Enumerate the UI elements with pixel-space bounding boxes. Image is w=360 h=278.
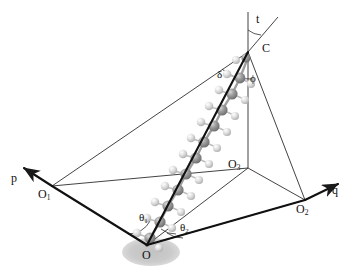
o1-letter: O bbox=[38, 187, 47, 201]
angle-label-delta: δ bbox=[217, 69, 222, 80]
point-label-o: O bbox=[142, 249, 151, 261]
angle-arcs bbox=[128, 30, 261, 238]
point-label-o2: O2 bbox=[296, 203, 308, 215]
vertex-dots bbox=[145, 243, 148, 246]
point-label-c: C bbox=[262, 42, 270, 54]
o2-letter: O bbox=[296, 202, 305, 216]
figure-canvas: p q t O1 O2 O3 C O θ1 θ2 δ ϕ bbox=[0, 0, 360, 278]
axis-label-p: p bbox=[11, 172, 17, 184]
theta2-sub: 2 bbox=[185, 227, 188, 234]
diagram-svg bbox=[0, 0, 360, 278]
angle-label-theta2: θ2 bbox=[180, 222, 189, 233]
o1-sub: 1 bbox=[47, 193, 51, 202]
theta1-sub: 1 bbox=[144, 217, 147, 224]
point-label-o3: O3 bbox=[228, 158, 240, 170]
angle-label-phi: ϕ bbox=[250, 73, 256, 84]
frame-lines bbox=[52, 52, 305, 245]
p-axis-arrow bbox=[24, 168, 52, 186]
axis-o-o1 bbox=[52, 186, 147, 245]
edge-c-o2 bbox=[248, 52, 305, 200]
edge-o1-o3 bbox=[52, 168, 248, 186]
axis-label-q: q bbox=[332, 184, 338, 196]
o3-sub: 3 bbox=[237, 163, 241, 172]
edge-o3-o2 bbox=[248, 168, 305, 200]
molecular-chain bbox=[133, 53, 255, 252]
o2-sub: 2 bbox=[305, 208, 309, 217]
axis-o-c bbox=[147, 52, 248, 245]
o3-letter: O bbox=[228, 157, 237, 171]
principal-lines bbox=[52, 52, 305, 245]
arc-t-top bbox=[248, 30, 261, 35]
point-label-o1: O1 bbox=[38, 188, 50, 200]
axis-label-t: t bbox=[256, 13, 259, 25]
angle-label-theta1: θ1 bbox=[139, 212, 148, 223]
